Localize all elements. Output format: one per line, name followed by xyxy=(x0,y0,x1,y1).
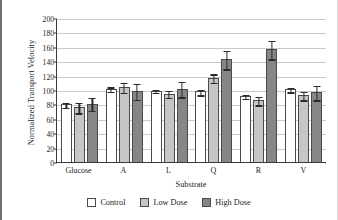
y-axis-tick-label: 60 xyxy=(46,115,54,124)
plot-area: 020406080100120140160180200 xyxy=(56,19,326,163)
error-bar-cap-upper xyxy=(63,103,70,104)
error-bar-cap-lower xyxy=(210,83,217,84)
bar-column[interactable] xyxy=(298,19,309,162)
y-axis-tick-label: 140 xyxy=(43,58,54,67)
bar-low[interactable] xyxy=(298,95,309,162)
y-axis-tick-label: 160 xyxy=(43,43,54,52)
bar-low[interactable] xyxy=(119,87,130,162)
error-bar-cap-upper xyxy=(197,90,204,91)
bar-low[interactable] xyxy=(208,78,219,162)
legend-swatch-high xyxy=(202,198,211,207)
error-bar-cap-upper xyxy=(179,82,186,83)
error-bar-line xyxy=(79,103,80,113)
bar-high[interactable] xyxy=(221,59,232,162)
bar-group xyxy=(236,19,281,162)
bar-column[interactable] xyxy=(285,19,296,162)
x-axis-tick-label: L xyxy=(146,166,191,175)
bar-column[interactable] xyxy=(177,19,188,162)
legend-label: Low Dose xyxy=(153,198,187,207)
x-axis-tick-label: Q xyxy=(191,166,236,175)
error-bar-cap-lower xyxy=(108,92,115,93)
bar-column[interactable] xyxy=(132,19,143,162)
error-bar-cap-upper xyxy=(108,87,115,88)
error-bar-cap-lower xyxy=(179,97,186,98)
error-bar-line xyxy=(316,86,317,100)
bar-column[interactable] xyxy=(240,19,251,162)
bar-column[interactable] xyxy=(106,19,117,162)
legend-item-low[interactable]: Low Dose xyxy=(140,198,187,207)
error-bar-cap-lower xyxy=(268,59,275,60)
error-bar-cap-lower xyxy=(300,100,307,101)
x-axis-tick-labels: GlucoseALQRV xyxy=(56,166,326,175)
bar-column[interactable] xyxy=(61,19,72,162)
error-bar-line xyxy=(271,41,272,60)
bar-column[interactable] xyxy=(119,19,130,162)
bar-column[interactable] xyxy=(164,19,175,162)
bar-low[interactable] xyxy=(164,94,175,162)
error-bar-cap-lower xyxy=(166,98,173,99)
error-bar-cap-lower xyxy=(134,100,141,101)
bar-column[interactable] xyxy=(87,19,98,162)
legend-item-control[interactable]: Control xyxy=(87,198,125,207)
bar-control[interactable] xyxy=(285,89,296,162)
bar-column[interactable] xyxy=(221,19,232,162)
bar-high[interactable] xyxy=(132,91,143,162)
error-bar-cap-upper xyxy=(134,84,141,85)
y-axis-title: Normalized Transport Velocity xyxy=(27,18,36,168)
bar-high[interactable] xyxy=(311,92,322,162)
bar-groups xyxy=(57,19,326,162)
error-bar-cap-upper xyxy=(268,41,275,42)
bar-control[interactable] xyxy=(106,89,117,162)
bar-column[interactable] xyxy=(74,19,85,162)
error-bar-cap-upper xyxy=(287,88,294,89)
error-bar-line xyxy=(226,51,227,70)
bar-column[interactable] xyxy=(266,19,277,162)
bar-control[interactable] xyxy=(61,104,72,162)
bar-high[interactable] xyxy=(87,104,98,162)
x-axis-title: Substrate xyxy=(56,180,326,189)
bar-high[interactable] xyxy=(177,89,188,162)
error-bar-cap-upper xyxy=(121,83,128,84)
bar-column[interactable] xyxy=(208,19,219,162)
error-bar-cap-upper xyxy=(223,51,230,52)
bar-column[interactable] xyxy=(195,19,206,162)
bar-group xyxy=(191,19,236,162)
x-axis-tick-label: V xyxy=(281,166,326,175)
bar-low[interactable] xyxy=(74,107,85,162)
error-bar-line xyxy=(258,97,259,106)
y-axis-tick-label: 40 xyxy=(46,130,54,139)
error-bar-cap-lower xyxy=(153,93,160,94)
error-bar-cap-lower xyxy=(76,113,83,114)
y-axis-tick-label: 80 xyxy=(46,101,54,110)
scan-edge-left xyxy=(0,0,2,220)
bar-control[interactable] xyxy=(240,96,251,162)
y-axis-tick-label: 180 xyxy=(43,29,54,38)
error-bar-cap-upper xyxy=(242,95,249,96)
error-bar-cap-upper xyxy=(210,74,217,75)
error-bar-line xyxy=(303,92,304,101)
bar-control[interactable] xyxy=(195,91,206,162)
error-bar-cap-lower xyxy=(223,69,230,70)
bar-column[interactable] xyxy=(151,19,162,162)
bar-control[interactable] xyxy=(151,91,162,162)
error-bar-line xyxy=(92,98,93,111)
error-bar-cap-lower xyxy=(63,108,70,109)
error-bar-line xyxy=(124,83,125,93)
bar-high[interactable] xyxy=(266,49,277,162)
error-bar-cap-upper xyxy=(255,97,262,98)
bar-column[interactable] xyxy=(253,19,264,162)
legend-item-high[interactable]: High Dose xyxy=(202,198,250,207)
error-bar-line xyxy=(213,74,214,83)
error-bar-cap-upper xyxy=(300,92,307,93)
y-axis-tick-label: 120 xyxy=(43,72,54,81)
error-bar-line xyxy=(181,82,182,98)
bar-group xyxy=(102,19,147,162)
bar-column[interactable] xyxy=(311,19,322,162)
error-bar-cap-upper xyxy=(166,91,173,92)
bar-group xyxy=(281,19,326,162)
bar-group xyxy=(147,19,192,162)
legend-swatch-control xyxy=(87,198,96,207)
x-axis-tick-label: Glucose xyxy=(56,166,101,175)
x-axis-tick-label: R xyxy=(236,166,281,175)
bar-low[interactable] xyxy=(253,100,264,162)
